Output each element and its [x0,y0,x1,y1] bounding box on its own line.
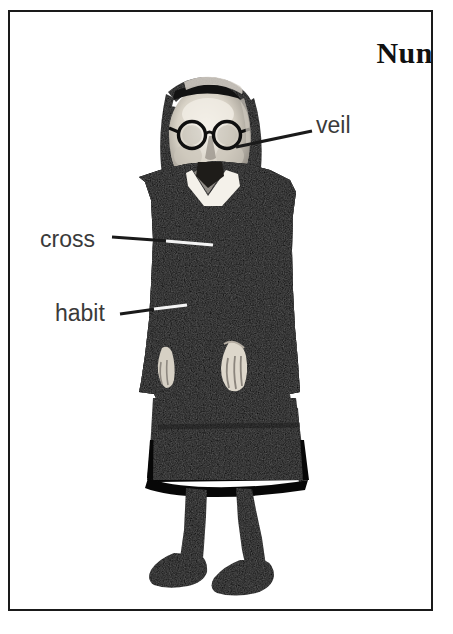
callout-label-habit: habit [55,300,105,326]
callout-label-cross: cross [40,226,95,252]
illustrated-vocabulary-card: Nun veil cross habit [0,0,453,634]
callout-label-veil: veil [316,112,351,138]
page-title: Nun [376,36,433,70]
